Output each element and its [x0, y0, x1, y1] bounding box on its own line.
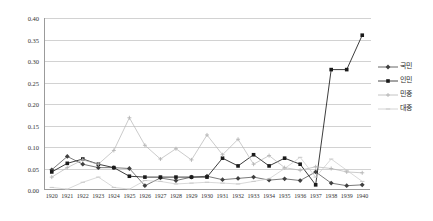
data-point-marker: [314, 183, 318, 187]
legend-item-2[interactable]: 인민: [378, 72, 432, 86]
legend-item-4[interactable]: 대중: [378, 100, 432, 114]
data-point-marker: [298, 162, 302, 166]
legend-item-label: 대중: [398, 102, 412, 112]
legend-marker-icon: [378, 87, 398, 99]
data-point-marker: [127, 116, 131, 120]
data-point-marker: [236, 176, 241, 181]
data-point-marker: [329, 167, 333, 171]
data-point-marker: [50, 175, 54, 179]
data-point-marker: [344, 183, 349, 188]
data-point-marker: [174, 175, 178, 179]
data-point-marker: [252, 162, 256, 166]
data-point-marker: [282, 176, 287, 181]
legend-item-label: 인민: [398, 74, 412, 84]
data-point-marker: [267, 164, 271, 168]
data-point-marker: [298, 168, 302, 172]
data-point-marker: [205, 175, 209, 179]
data-point-marker: [236, 164, 240, 168]
data-point-marker: [314, 165, 318, 169]
series-3: [50, 116, 364, 179]
data-point-marker: [112, 166, 116, 170]
data-point-marker: [360, 33, 364, 37]
data-point-marker: [252, 153, 256, 157]
data-point-marker: [360, 182, 365, 187]
data-point-marker: [386, 65, 391, 70]
legend-marker-icon: [378, 59, 398, 71]
legend-marker-icon: [378, 101, 398, 113]
legend-item-1[interactable]: 국민: [378, 58, 432, 72]
data-point-marker: [329, 181, 334, 186]
data-point-marker: [329, 68, 333, 72]
legend-item-label: 민중: [398, 88, 412, 98]
data-point-marker: [360, 171, 364, 175]
data-point-marker: [50, 170, 54, 174]
data-point-marker: [298, 178, 303, 183]
data-point-marker: [128, 174, 132, 178]
legend-marker-icon: [378, 73, 398, 85]
data-point-marker: [283, 156, 287, 160]
data-point-marker: [190, 175, 194, 179]
chart-root: 0.000.050.100.150.200.250.300.350.40 192…: [0, 0, 433, 221]
data-point-marker: [221, 156, 225, 160]
data-point-marker: [251, 175, 256, 180]
data-point-marker: [345, 68, 349, 72]
data-point-marker: [159, 175, 163, 179]
data-point-marker: [65, 162, 69, 166]
series-layer: [0, 0, 433, 221]
legend-item-label: 국민: [398, 60, 412, 70]
data-point-marker: [386, 93, 390, 97]
data-point-marker: [220, 177, 225, 182]
chart-legend: 국민인민민중대중: [378, 58, 432, 114]
data-point-marker: [65, 166, 69, 170]
data-point-marker: [386, 79, 390, 83]
data-point-marker: [143, 175, 147, 179]
data-point-marker: [80, 162, 85, 167]
legend-item-3[interactable]: 민중: [378, 86, 432, 100]
